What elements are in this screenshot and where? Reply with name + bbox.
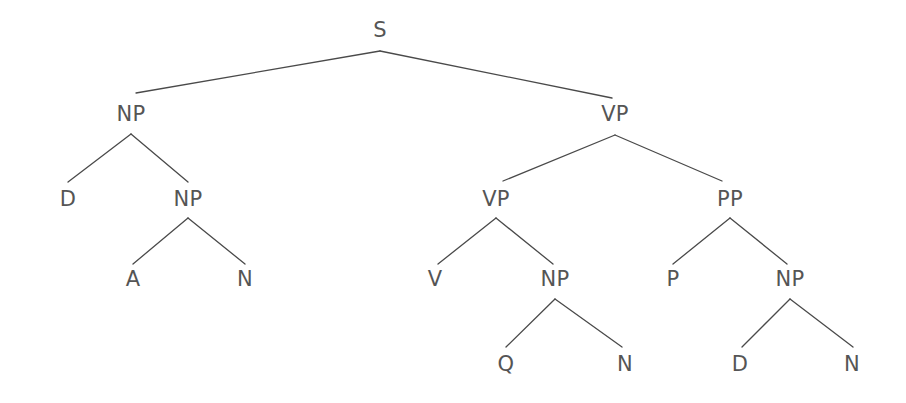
tree-node-np-n12: NP bbox=[776, 269, 805, 290]
tree-node-p-n11: P bbox=[667, 269, 680, 290]
tree-edge bbox=[496, 218, 553, 264]
tree-node-q-n13: Q bbox=[498, 354, 515, 375]
tree-node-a-n7: A bbox=[126, 269, 141, 290]
tree-node-vp-n5: VP bbox=[482, 189, 510, 210]
tree-edge bbox=[380, 51, 612, 98]
tree-edge-layer bbox=[0, 0, 906, 403]
tree-node-n-n8: N bbox=[237, 269, 253, 290]
tree-node-d-n15: D bbox=[732, 354, 748, 375]
tree-node-np-n10: NP bbox=[541, 269, 570, 290]
tree-edge bbox=[188, 218, 245, 264]
tree-edge bbox=[615, 135, 722, 181]
tree-edge bbox=[131, 134, 188, 182]
tree-edge bbox=[506, 299, 555, 347]
tree-edge bbox=[555, 299, 622, 347]
tree-node-pp-n6: PP bbox=[717, 189, 743, 210]
tree-edge bbox=[68, 134, 131, 182]
tree-node-n-n14: N bbox=[617, 354, 633, 375]
tree-edge bbox=[673, 218, 730, 264]
tree-edge bbox=[742, 299, 790, 347]
tree-node-np-n1: NP bbox=[117, 104, 146, 125]
syntax-tree-figure: SNPVPDNPVPPPANVNPPNPQNDN bbox=[0, 0, 906, 403]
tree-node-np-n4: NP bbox=[174, 189, 203, 210]
tree-node-v-n9: V bbox=[428, 269, 443, 290]
tree-edge bbox=[136, 51, 380, 93]
tree-node-s-n0: S bbox=[373, 20, 387, 41]
tree-edge bbox=[730, 218, 787, 264]
tree-edge bbox=[438, 218, 496, 264]
tree-node-vp-n2: VP bbox=[601, 104, 629, 125]
tree-edge bbox=[503, 135, 615, 181]
tree-edge bbox=[133, 218, 188, 264]
tree-edge bbox=[790, 299, 853, 347]
tree-node-n-n16: N bbox=[844, 354, 860, 375]
tree-node-d-n3: D bbox=[60, 189, 76, 210]
